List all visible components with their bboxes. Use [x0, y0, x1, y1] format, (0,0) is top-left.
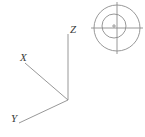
diagram-canvas — [0, 0, 145, 137]
coordinate-axes-group — [19, 34, 68, 123]
x-axis-line — [25, 63, 68, 100]
target-center-mark-icon — [112, 24, 116, 28]
z-axis-label: Z — [70, 24, 76, 35]
y-axis-label: Y — [11, 113, 17, 124]
x-axis-label: X — [20, 52, 27, 63]
crosshair-target-group — [91, 2, 143, 54]
y-axis-line — [19, 100, 68, 123]
technical-line-diagram: X Y Z — [0, 0, 145, 137]
